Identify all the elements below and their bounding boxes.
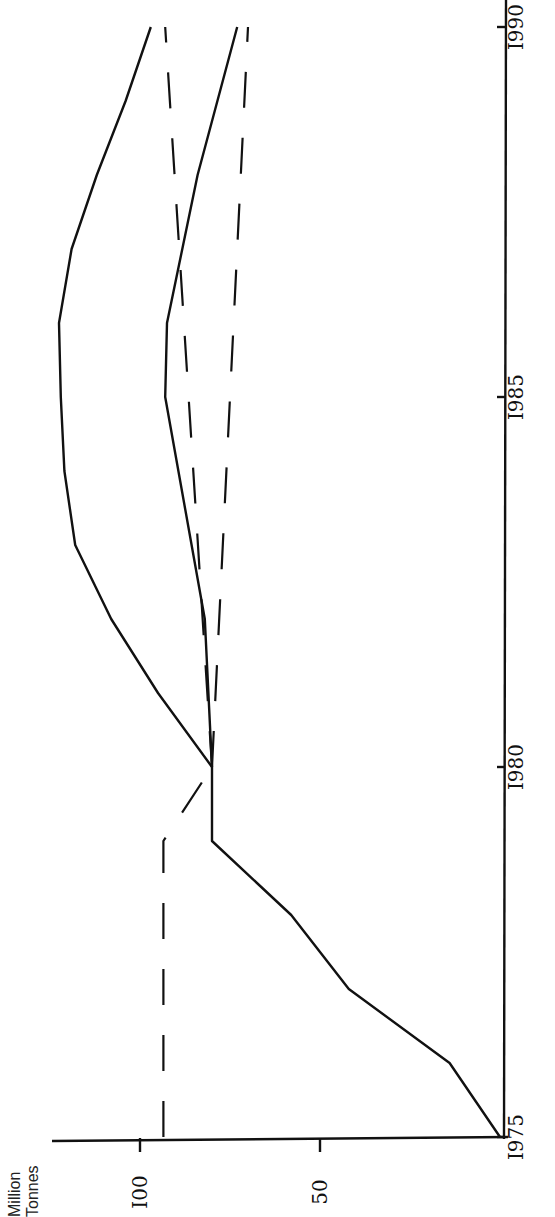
dashed-series-line-5 [212, 27, 248, 767]
dashed-series-line-4 [165, 27, 212, 767]
value-tick-label: 50 [308, 1179, 332, 1204]
year-tick-label: I975 [504, 1114, 528, 1160]
year-tick-label: I980 [504, 744, 528, 790]
solid-series-line-0 [212, 767, 500, 1137]
year-tick-label: I985 [504, 374, 528, 420]
series-layer [59, 27, 500, 1137]
value-ticks: I0050 [128, 1138, 332, 1209]
year-axis-line [504, 0, 506, 1139]
year-tick-label: I990 [504, 4, 528, 50]
value-tick-label: I00 [128, 1175, 152, 1208]
rotated-line-chart: I0050 I975I980I985I990 Million Tonnes [0, 0, 555, 1217]
solid-series-line-2 [59, 27, 212, 767]
dashed-series-line-1 [163, 767, 212, 1137]
value-axis-line [52, 1137, 508, 1141]
y-axis-unit-label: Million Tonnes [6, 1165, 41, 1217]
year-ticks: I975I980I985I990 [497, 4, 528, 1160]
solid-series-line-3 [165, 27, 237, 767]
